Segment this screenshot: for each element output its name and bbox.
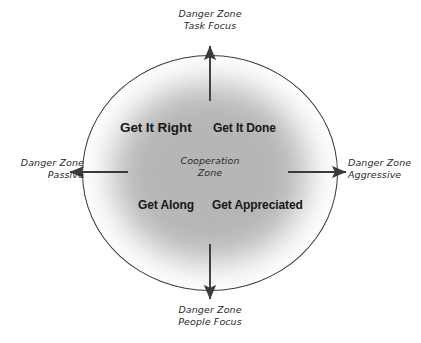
label-left-line1: Danger Zone	[6, 157, 84, 169]
diagram-canvas: Danger Zone Task Focus Danger Zone Aggre…	[0, 0, 421, 343]
label-bottom-line1: Danger Zone	[150, 304, 270, 316]
label-top-line2: Task Focus	[150, 20, 270, 32]
quadrant-label-get-it-done: Get It Done	[213, 121, 276, 136]
center-line2: Zone	[150, 167, 270, 179]
label-right-line2: Aggressive	[348, 169, 421, 181]
label-danger-zone-top: Danger Zone Task Focus	[150, 8, 270, 32]
label-danger-zone-bottom: Danger Zone People Focus	[150, 304, 270, 328]
quadrant-label-get-it-right: Get It Right	[120, 119, 192, 136]
quadrant-label-get-appreciated: Get Appreciated	[212, 198, 303, 213]
label-right-line1: Danger Zone	[348, 157, 421, 169]
center-line1: Cooperation	[150, 155, 270, 167]
label-top-line1: Danger Zone	[150, 8, 270, 20]
label-cooperation-zone: Cooperation Zone	[150, 155, 270, 179]
quadrant-label-get-along: Get Along	[138, 198, 194, 213]
label-left-line2: Passive	[6, 169, 84, 181]
label-bottom-line2: People Focus	[150, 316, 270, 328]
label-danger-zone-left: Danger Zone Passive	[6, 157, 84, 181]
label-danger-zone-right: Danger Zone Aggressive	[348, 157, 421, 181]
